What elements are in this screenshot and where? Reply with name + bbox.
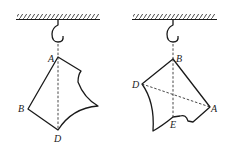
label-E: E [169, 119, 176, 130]
plate-outline [28, 57, 98, 130]
label-A: A [210, 103, 218, 114]
left-figure: A B D [16, 14, 100, 144]
right-figure: B D A E [131, 14, 218, 131]
label-B: B [176, 53, 182, 64]
label-A: A [47, 53, 55, 64]
hook-icon [167, 20, 178, 42]
suspended-plates-diagram: A B D B D A E [0, 0, 233, 153]
ceiling-hatch [17, 14, 99, 19]
label-B: B [18, 103, 24, 114]
hook-icon [52, 20, 63, 42]
plumb-line-DA [142, 84, 210, 107]
label-D: D [53, 133, 62, 144]
ceiling-hatch [133, 14, 215, 19]
label-D: D [131, 79, 140, 90]
